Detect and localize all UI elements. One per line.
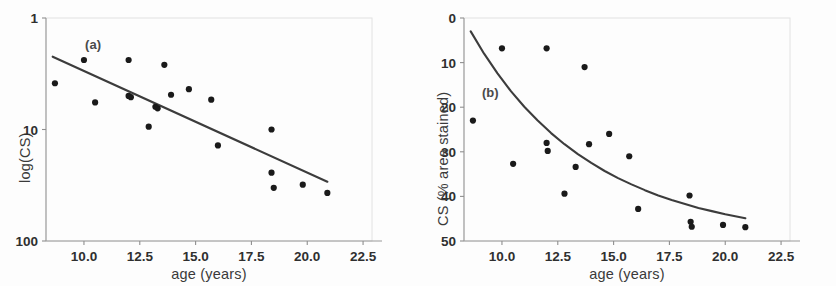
data-point — [606, 131, 612, 137]
data-point — [128, 94, 134, 100]
data-point — [686, 192, 692, 198]
data-point — [581, 64, 587, 70]
panel-a-plot — [0, 0, 418, 286]
panel-b-y-tick-10: 10 — [418, 55, 456, 70]
data-point — [742, 224, 748, 230]
data-point — [268, 170, 274, 176]
data-point — [689, 224, 695, 230]
fit-line — [471, 31, 746, 218]
panel-a-y-tick-10: 10 — [0, 122, 38, 137]
panel-a-x-tick-12-5: 12.5 — [127, 249, 153, 264]
panel-a-y-tick-100: 100 — [0, 234, 38, 249]
panel-b-x-tick-10: 10.0 — [489, 249, 515, 264]
panel-b-y-axis-title: CS (% area stained) — [435, 92, 451, 226]
data-point — [215, 142, 221, 148]
data-point — [92, 99, 98, 105]
data-point — [545, 148, 551, 154]
panel-b-tag: (b) — [482, 85, 499, 100]
panel-b-x-tick-17-5: 17.5 — [656, 249, 682, 264]
data-point — [268, 126, 274, 132]
data-point — [146, 124, 152, 130]
panel-b-y-tick-0: 0 — [418, 11, 456, 26]
data-point — [168, 92, 174, 98]
data-point — [208, 97, 214, 103]
panel-b: (b) age (years) 50 40 30 20 10 0 10.0 12… — [418, 0, 836, 286]
panel-a-x-tick-17-5: 17.5 — [238, 249, 264, 264]
data-point — [186, 86, 192, 92]
panel-b-x-tick-12-5: 12.5 — [545, 249, 571, 264]
data-point — [635, 206, 641, 212]
panel-a-x-tick-22-5: 22.5 — [350, 249, 376, 264]
data-point — [52, 80, 58, 86]
panel-a-tag: (a) — [85, 37, 101, 52]
data-point — [586, 141, 592, 147]
data-point — [300, 182, 306, 188]
panel-a: (a) age (years) log(CS) 100 10 1 10.0 12… — [0, 0, 418, 286]
data-point — [499, 45, 505, 51]
data-point — [126, 57, 132, 63]
data-point — [573, 164, 579, 170]
panel-b-plot — [418, 0, 836, 286]
data-point — [626, 153, 632, 159]
data-point — [544, 140, 550, 146]
data-point — [155, 105, 161, 111]
panel-a-x-axis-title: age (years) — [0, 266, 418, 282]
panel-b-y-tick-50: 50 — [418, 234, 456, 249]
panel-a-x-tick-10: 10.0 — [71, 249, 97, 264]
figure-root: (a) age (years) log(CS) 100 10 1 10.0 12… — [0, 0, 836, 286]
panel-a-y-tick-1: 1 — [0, 11, 38, 26]
data-point — [561, 191, 567, 197]
panel-a-y-axis-title: log(CS) — [17, 132, 33, 183]
data-point — [271, 185, 277, 191]
panel-a-x-tick-15: 15.0 — [182, 249, 208, 264]
fit-line — [53, 57, 328, 182]
data-point — [720, 222, 726, 228]
panel-b-x-axis-title: age (years) — [418, 266, 836, 282]
data-point — [544, 45, 550, 51]
data-point — [324, 190, 330, 196]
data-point — [510, 161, 516, 167]
panel-b-x-tick-15: 15.0 — [600, 249, 626, 264]
panel-b-x-tick-20: 20.0 — [712, 249, 738, 264]
panel-a-x-tick-20: 20.0 — [294, 249, 320, 264]
data-point — [470, 117, 476, 123]
data-point — [81, 57, 87, 63]
panel-b-x-tick-22-5: 22.5 — [768, 249, 794, 264]
data-point — [161, 62, 167, 68]
